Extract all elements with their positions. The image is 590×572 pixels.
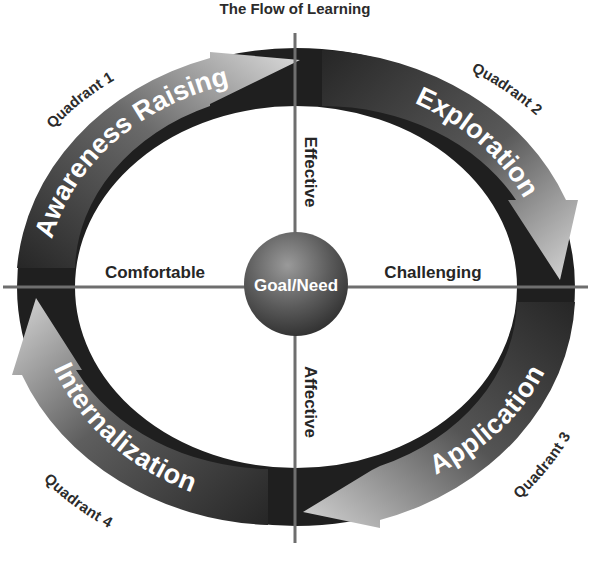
quadrant-label-3: Quadrant 3: [510, 429, 574, 502]
center-label-goal-need: Goal/Need: [254, 276, 338, 295]
quadrant-label-4: Quadrant 4: [41, 470, 116, 532]
flow-of-learning-diagram: The Flow of Learning Awareness Raising E…: [0, 0, 590, 572]
arrow-application: [303, 302, 575, 528]
axis-label-challenging: Challenging: [384, 263, 481, 282]
diagram-title: The Flow of Learning: [220, 0, 371, 17]
arrow-internalization: [12, 298, 268, 525]
axis-label-comfortable: Comfortable: [105, 263, 205, 282]
arrow-exploration: [322, 50, 578, 280]
axis-label-affective: Affective: [301, 366, 320, 438]
axis-label-effective: Effective: [301, 137, 320, 208]
